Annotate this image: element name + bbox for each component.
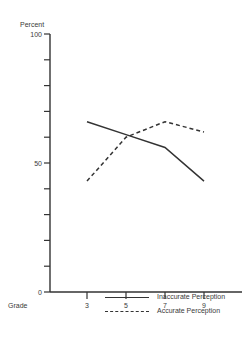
x-tick-label: 3 bbox=[85, 302, 89, 309]
legend-item-accurate: Accurate Perception bbox=[105, 306, 248, 318]
solid-line-swatch-icon bbox=[105, 297, 149, 298]
legend-label-inaccurate: Inaccurate Perception bbox=[157, 293, 225, 300]
series-lines bbox=[87, 122, 204, 181]
legend-item-inaccurate: Inaccurate Perception bbox=[105, 292, 248, 304]
y-tick-label: 0 bbox=[38, 289, 42, 296]
y-tick-label: 100 bbox=[30, 31, 42, 38]
y-tick-label: 50 bbox=[34, 160, 42, 167]
legend-label-accurate: Accurate Perception bbox=[157, 307, 220, 314]
dashed-line-swatch-icon bbox=[105, 311, 149, 312]
series-accurate-perception bbox=[87, 122, 204, 181]
y-axis: 050100 bbox=[30, 31, 50, 296]
x-axis-title: Grade bbox=[8, 302, 28, 309]
series-inaccurate-perception bbox=[87, 122, 204, 181]
y-axis-title: Percent bbox=[20, 21, 44, 28]
